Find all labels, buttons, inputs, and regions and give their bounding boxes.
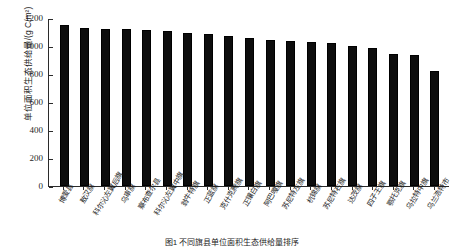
- bar-column: [363, 19, 384, 186]
- bar-column: [75, 19, 96, 186]
- bar-column: [383, 19, 404, 186]
- bar-column: [260, 19, 281, 186]
- x-label-cell: 乌拉特中旗: [404, 190, 425, 238]
- x-label-cell: 乌兰浩特市: [424, 190, 445, 238]
- y-tick-label: 0: [39, 181, 44, 191]
- y-tick-label: 200: [30, 153, 44, 163]
- bar-column: [198, 19, 219, 186]
- bar-column: [54, 19, 75, 186]
- bar-column: [157, 19, 178, 186]
- bar-column: [177, 19, 198, 186]
- x-label-cell: 正镶白旗: [239, 190, 260, 238]
- bar: [224, 36, 233, 186]
- x-axis-labels: 博爱县敖汉旗科尔沁左翼后旗乌审旗察布查尔县科尔沁左翼中旗翁牛特旗正蓝旗克什克腾旗…: [48, 190, 449, 238]
- y-tick-label: 1200: [25, 13, 43, 23]
- bar: [368, 48, 377, 186]
- bar-column: [239, 19, 260, 186]
- x-label-cell: 科尔沁左翼中旗: [156, 190, 177, 238]
- y-tick-label: 400: [30, 125, 44, 135]
- x-label-cell: 翁牛特旗: [177, 190, 198, 238]
- x-label-cell: 苏尼特右旗: [321, 190, 342, 238]
- bar: [307, 42, 316, 186]
- x-label-cell: 达茂旗: [342, 190, 363, 238]
- x-label-cell: 正蓝旗: [197, 190, 218, 238]
- x-label-cell: 敖汉旗: [74, 190, 95, 238]
- x-label-cell: 科尔沁左翼后旗: [94, 190, 115, 238]
- bar-column: [342, 19, 363, 186]
- bar: [266, 40, 275, 186]
- figure-caption: 图1 不同旗县单位面积生态供给量排序: [0, 236, 464, 247]
- bar: [245, 38, 254, 186]
- bar: [286, 41, 295, 186]
- y-tick-label: 1000: [25, 41, 43, 51]
- bar-column: [116, 19, 137, 186]
- bar: [348, 46, 357, 186]
- bar-series: [49, 19, 449, 186]
- bar: [80, 28, 89, 186]
- bar-column: [95, 19, 116, 186]
- y-tick-label: 800: [30, 69, 44, 79]
- bar: [327, 43, 336, 186]
- bar-column: [404, 19, 425, 186]
- bar: [142, 30, 151, 186]
- bar: [430, 71, 439, 186]
- bar: [122, 29, 131, 186]
- x-label-cell: 博爱县: [53, 190, 74, 238]
- bar: [101, 29, 110, 187]
- bar: [204, 34, 213, 186]
- x-label-cell: 四子王旗: [362, 190, 383, 238]
- x-label-cell: 阿巴嘎旗: [259, 190, 280, 238]
- plot-area: 0 200 400 600 800 1000: [48, 19, 449, 187]
- bar: [60, 25, 69, 186]
- x-label-cell: 杭锦旗: [301, 190, 322, 238]
- bar-column: [322, 19, 343, 186]
- bar: [389, 54, 398, 186]
- x-label-cell: 察布查尔县: [136, 190, 157, 238]
- x-label-cell: 鄂托克旗: [383, 190, 404, 238]
- x-label-cell: 克什克腾旗: [218, 190, 239, 238]
- bar: [163, 31, 172, 186]
- bar-column: [301, 19, 322, 186]
- bar-column: [219, 19, 240, 186]
- bar-column: [280, 19, 301, 186]
- x-label-cell: 苏尼特左旗: [280, 190, 301, 238]
- y-tick-label: 600: [30, 97, 44, 107]
- bar: [183, 33, 192, 186]
- bar-column: [424, 19, 445, 186]
- x-label-cell: 乌审旗: [115, 190, 136, 238]
- bar-column: [136, 19, 157, 186]
- bar: [410, 55, 419, 186]
